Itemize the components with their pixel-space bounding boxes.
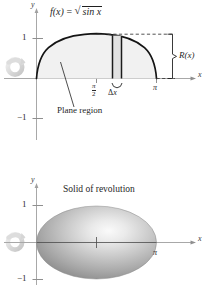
equals-sign: =	[66, 6, 72, 17]
radius-brace	[168, 34, 177, 78]
square-root-expression: √ sin x	[75, 6, 103, 17]
y-tick-label-1: 1	[22, 33, 27, 42]
solid-of-revolution-figure: y x 1 −1 π Solid of revolution	[0, 145, 210, 291]
y-axis-label: y	[31, 1, 35, 9]
delta-x-variable: x	[113, 88, 117, 97]
y-axis-arrow	[35, 8, 39, 13]
shaded-region	[37, 34, 157, 79]
x-axis-arrow	[191, 240, 197, 244]
representative-rectangle	[113, 35, 122, 78]
revolve-arrow-icon	[8, 58, 26, 75]
x-tick-label-pi: π	[153, 84, 157, 92]
y-tick-label-minus-1: −1	[17, 274, 27, 283]
function-argument: (x)	[53, 6, 64, 17]
radius-label: R(x)	[179, 51, 195, 60]
solid-of-revolution-caption: Solid of revolution	[63, 185, 135, 195]
plane-region-graphics	[0, 0, 210, 145]
y-tick-label-minus-1: −1	[17, 113, 27, 122]
radicand: sin x	[82, 6, 103, 17]
x-axis-label: x	[198, 71, 202, 79]
x-tick-label-pi: π	[153, 249, 157, 257]
delta-x-label: Δx	[108, 89, 117, 97]
pi-over-2-numerator: π	[92, 83, 96, 90]
plane-region-caption: Plane region	[57, 106, 102, 115]
x-axis-arrow	[191, 76, 197, 80]
figure-root: y x 1 −1 π 2 π f(x) = √ sin x R(x) Δx Pl…	[0, 0, 210, 291]
y-axis-arrow	[35, 183, 39, 188]
plane-region-figure: y x 1 −1 π 2 π f(x) = √ sin x R(x) Δx Pl…	[0, 0, 210, 145]
radical-sign: √	[75, 5, 81, 16]
function-equation-label: f(x) = √ sin x	[50, 6, 102, 17]
y-axis-label: y	[31, 176, 35, 184]
x-tick-label-pi-over-2: π 2	[92, 83, 96, 99]
revolve-arrow-icon	[8, 233, 26, 250]
y-tick-label-1: 1	[22, 200, 27, 209]
x-axis-label: x	[198, 235, 202, 243]
solid-of-revolution-graphics	[0, 145, 210, 291]
pi-over-2-denominator: 2	[92, 91, 96, 98]
